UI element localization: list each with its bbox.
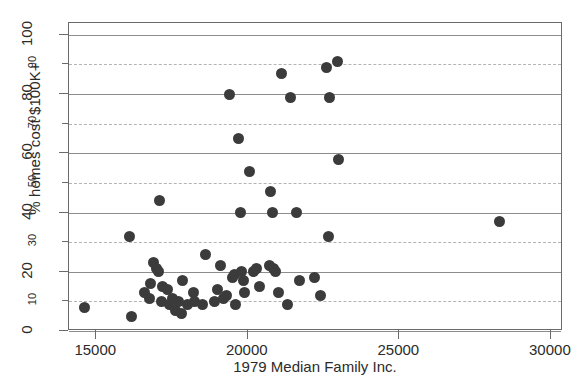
scatter-point xyxy=(254,281,265,292)
y-tick-major xyxy=(59,93,68,94)
scatter-point xyxy=(230,299,241,310)
scatter-point xyxy=(332,56,343,67)
scatter-point xyxy=(270,266,281,277)
scatter-point xyxy=(221,290,232,301)
plot-area xyxy=(68,22,562,330)
scatter-point xyxy=(291,207,302,218)
y-tick-label-minor: 50 xyxy=(26,157,38,205)
x-tick-label: 15000 xyxy=(55,341,135,358)
scatter-point xyxy=(282,299,293,310)
scatter-point xyxy=(79,302,90,313)
scatter-point xyxy=(145,278,156,289)
y-tick-minor xyxy=(62,123,68,124)
scatter-point xyxy=(321,62,332,73)
scatter-point xyxy=(126,311,137,322)
gridline-minor xyxy=(69,301,561,302)
scatter-point xyxy=(323,231,334,242)
scatter-point xyxy=(235,207,246,218)
y-tick-minor xyxy=(62,241,68,242)
scatter-point xyxy=(265,186,276,197)
scatter-point xyxy=(309,272,320,283)
y-tick-major xyxy=(59,212,68,213)
scatter-point xyxy=(197,299,208,310)
x-tick xyxy=(247,330,248,339)
y-tick-minor xyxy=(62,182,68,183)
y-tick-minor xyxy=(62,300,68,301)
scatter-point xyxy=(285,92,296,103)
y-tick-major xyxy=(59,271,68,272)
scatter-point xyxy=(273,287,284,298)
gridline-major xyxy=(69,94,561,95)
x-tick-label: 20000 xyxy=(207,341,287,358)
y-tick-label-minor: 90 xyxy=(26,38,38,86)
scatter-point xyxy=(154,195,165,206)
scatter-point xyxy=(233,133,244,144)
gridline-minor xyxy=(69,124,561,125)
scatter-point xyxy=(494,216,505,227)
x-tick xyxy=(95,330,96,339)
x-tick-label: 30000 xyxy=(510,341,580,358)
y-tick-minor xyxy=(62,63,68,64)
scatter-point xyxy=(276,68,287,79)
scatter-chart: % homes cost $100K+ 02040608010010305070… xyxy=(0,0,580,391)
gridline-major xyxy=(69,331,561,332)
scatter-point xyxy=(239,287,250,298)
scatter-point xyxy=(144,293,155,304)
scatter-point xyxy=(153,266,164,277)
scatter-point xyxy=(244,166,255,177)
scatter-point xyxy=(267,207,278,218)
scatter-point xyxy=(200,249,211,260)
scatter-point xyxy=(124,231,135,242)
y-tick-label-minor: 10 xyxy=(26,275,38,323)
y-tick-major xyxy=(59,34,68,35)
scatter-point xyxy=(238,275,249,286)
gridline-minor xyxy=(69,183,561,184)
x-tick-label: 25000 xyxy=(358,341,438,358)
scatter-point xyxy=(294,275,305,286)
x-axis-label: 1979 Median Family Inc. xyxy=(68,358,562,375)
scatter-point xyxy=(177,275,188,286)
x-tick xyxy=(550,330,551,339)
gridline-major xyxy=(69,153,561,154)
scatter-point xyxy=(333,154,344,165)
y-tick-label-minor: 30 xyxy=(26,216,38,264)
gridline-major xyxy=(69,213,561,214)
y-tick-major xyxy=(59,152,68,153)
x-tick xyxy=(398,330,399,339)
y-tick-label-minor: 70 xyxy=(26,98,38,146)
scatter-point xyxy=(324,92,335,103)
gridline-minor xyxy=(69,242,561,243)
gridline-major xyxy=(69,35,561,36)
gridline-minor xyxy=(69,64,561,65)
scatter-point xyxy=(215,260,226,271)
y-tick-major xyxy=(59,330,68,331)
scatter-point xyxy=(224,89,235,100)
scatter-point xyxy=(315,290,326,301)
